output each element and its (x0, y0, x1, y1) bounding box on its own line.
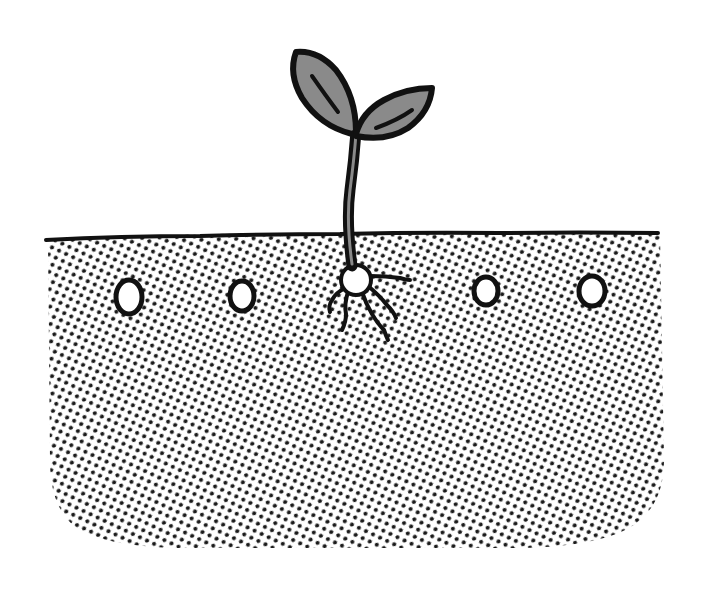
leaf-left (293, 52, 356, 134)
seed-4 (579, 276, 605, 306)
leaf-right (356, 88, 432, 138)
illustration-canvas (0, 0, 707, 596)
seed-2 (230, 281, 254, 311)
seed-1 (116, 280, 142, 314)
seed-3 (474, 277, 498, 305)
stem (348, 132, 356, 266)
seedling-illustration: Germinating seedling in soil (0, 0, 707, 596)
